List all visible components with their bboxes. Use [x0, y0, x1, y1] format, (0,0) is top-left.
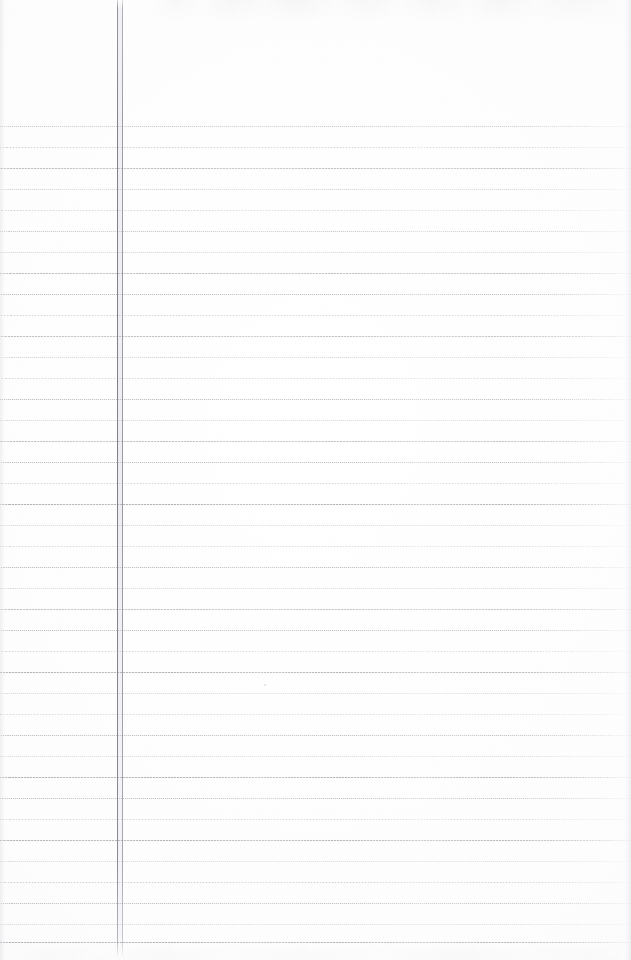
scanned-page: Blank ruled notebook page	[0, 0, 631, 960]
paper-background	[0, 0, 631, 960]
